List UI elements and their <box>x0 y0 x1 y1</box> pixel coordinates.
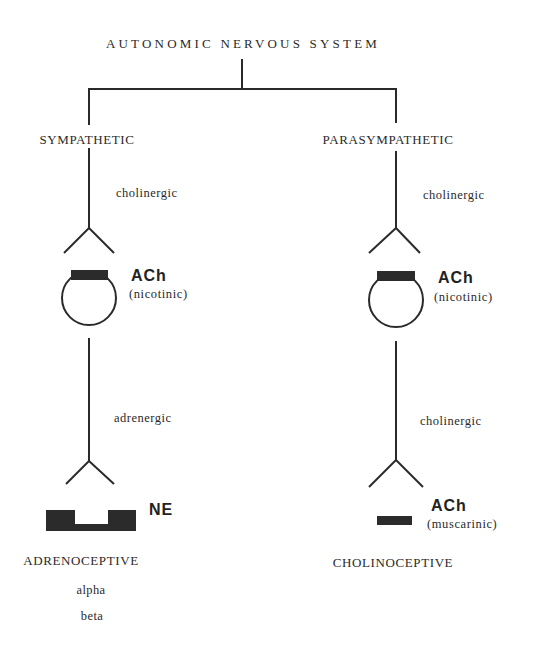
sympathetic-label: SYMPATHETIC <box>40 132 135 147</box>
sympathetic-ganglion-transmitter: ACh <box>131 267 167 284</box>
muscarinic-receptor-bar <box>377 516 412 525</box>
nicotinic-receptor-bar <box>377 271 415 281</box>
sympathetic-preganglionic-neuron <box>64 148 114 253</box>
parasympathetic-effector-receptor: (muscarinic) <box>427 517 497 531</box>
sympathetic-ganglion-receptor: (nicotinic) <box>129 287 188 301</box>
adrenoceptive-label: ADRENOCEPTIVE <box>23 553 138 568</box>
parasympathetic-ganglion-cell <box>369 271 423 327</box>
ans-diagram: AUTONOMIC NERVOUS SYSTEM SYMPATHETIC cho… <box>0 0 545 651</box>
parasympathetic-postganglionic-neuron <box>369 341 423 487</box>
nicotinic-receptor-bar <box>71 270 108 280</box>
parasympathetic-effector-transmitter: ACh <box>431 497 467 514</box>
sympathetic-ganglion-cell <box>62 270 116 325</box>
sympathetic-effector-transmitter: NE <box>149 501 173 518</box>
division-bracket <box>89 59 396 125</box>
parasympathetic-branch: PARASYMPATHETIC cholinergic ACh (nicotin… <box>323 132 498 570</box>
sympathetic-branch: SYMPATHETIC cholinergic ACh (nicotinic) … <box>23 132 187 623</box>
parasympathetic-ganglion-transmitter: ACh <box>438 269 474 286</box>
subtype-beta: beta <box>81 609 103 623</box>
parasympathetic-ganglion-receptor: (nicotinic) <box>434 290 493 304</box>
subtype-alpha: alpha <box>76 583 105 597</box>
sympathetic-postganglionic-neuron <box>66 338 114 484</box>
adrenoceptor-shape <box>46 510 136 531</box>
sympathetic-postganglionic-fiber-type: adrenergic <box>114 411 172 425</box>
cholinoceptive-label: CHOLINOCEPTIVE <box>333 555 453 570</box>
parasympathetic-label: PARASYMPATHETIC <box>323 132 454 147</box>
diagram-title: AUTONOMIC NERVOUS SYSTEM <box>106 36 380 51</box>
parasympathetic-postganglionic-fiber-type: cholinergic <box>420 414 482 428</box>
parasympathetic-preganglionic-neuron <box>369 151 420 253</box>
parasympathetic-preganglionic-fiber-type: cholinergic <box>423 188 485 202</box>
sympathetic-preganglionic-fiber-type: cholinergic <box>116 186 178 200</box>
